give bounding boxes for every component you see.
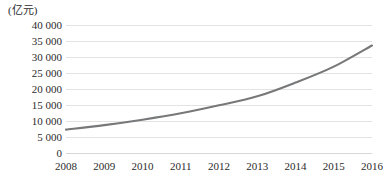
x-tick-label: 2013 <box>246 159 268 173</box>
y-tick-label: 10 000 <box>0 116 62 127</box>
plot-area <box>66 25 372 153</box>
x-tick-label: 2010 <box>132 159 154 173</box>
y-tick-label: 15 000 <box>0 100 62 111</box>
x-tick-label: 2016 <box>361 159 383 173</box>
y-tick-label: 5 000 <box>0 132 62 143</box>
y-tick-label: 35 000 <box>0 36 62 47</box>
x-tick-label: 2014 <box>285 159 307 173</box>
x-tick-label: 2009 <box>93 159 115 173</box>
x-tick-label: 2015 <box>323 159 345 173</box>
series-line <box>66 45 372 129</box>
x-tick-label: 2012 <box>208 159 230 173</box>
y-axis-tick-labels: 05 00010 00015 00020 00025 00030 00035 0… <box>0 25 62 153</box>
x-tick-label: 2011 <box>170 159 192 173</box>
y-tick-label: 25 000 <box>0 68 62 79</box>
y-tick-label: 20 000 <box>0 84 62 95</box>
y-tick-label: 30 000 <box>0 52 62 63</box>
series-svg <box>66 25 372 153</box>
x-tick-label: 2008 <box>55 159 77 173</box>
y-axis-unit-label: (亿元) <box>8 4 37 17</box>
x-axis-tick-labels: 200820092010201120122013201420152016 <box>66 159 372 175</box>
gridline <box>66 153 372 154</box>
y-tick-label: 40 000 <box>0 20 62 31</box>
y-tick-label: 0 <box>0 148 62 159</box>
